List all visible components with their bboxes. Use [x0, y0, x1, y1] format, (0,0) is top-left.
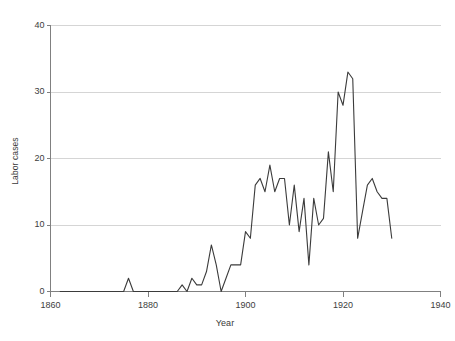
y-axis-label: Labor cases: [8, 126, 22, 196]
y-tick-label-30: 30: [23, 86, 45, 96]
x-axis-label: Year: [0, 318, 450, 328]
y-tick-label-0: 0: [23, 286, 45, 296]
y-tick-label-10: 10: [23, 219, 45, 229]
y-axis-label-text: Labor cases: [10, 137, 20, 184]
y-tick-label-20: 20: [23, 153, 45, 163]
x-tick-label-1940: 1940: [421, 300, 455, 310]
data-line-labor-cases: [60, 72, 392, 291]
x-tick-label-1900: 1900: [226, 300, 266, 310]
x-tick-label-1920: 1920: [323, 300, 363, 310]
x-tick-label-1860: 1860: [31, 300, 71, 310]
x-tick-label-1880: 1880: [128, 300, 168, 310]
x-axis-label-text: Year: [216, 318, 235, 328]
y-tick-label-40: 40: [23, 20, 45, 30]
